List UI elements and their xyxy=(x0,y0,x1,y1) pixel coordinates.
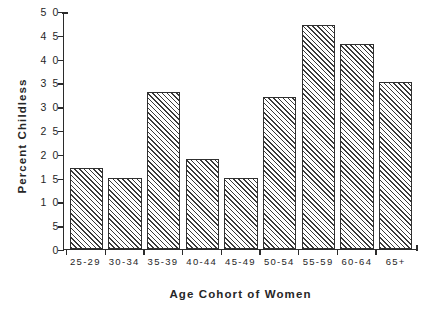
y-tick-label: 4 0 xyxy=(41,54,60,66)
y-tick-label: 5 xyxy=(53,220,60,232)
bar-slot xyxy=(299,12,338,249)
bar[interactable] xyxy=(147,92,180,249)
x-tick-label: 40-44 xyxy=(182,256,221,267)
y-tick-label: 3 5 xyxy=(41,77,60,89)
y-tick-label: 1 5 xyxy=(41,173,60,185)
y-tick-label: 1 0 xyxy=(41,196,60,208)
bar[interactable] xyxy=(340,44,373,249)
x-tick-mark xyxy=(337,249,338,255)
bar-slot xyxy=(144,12,183,249)
bar-slot xyxy=(338,12,377,249)
x-axis-tick-labels: 25-2930-3435-3940-4445-4950-5455-5960-64… xyxy=(63,256,418,267)
x-tick-label: 60-64 xyxy=(337,256,376,267)
plot-area: 051 01 52 02 53 03 54 04 55 0 xyxy=(63,12,418,250)
y-tick-label: 0 xyxy=(53,244,60,256)
bar[interactable] xyxy=(108,178,141,249)
x-tick-label: 30-34 xyxy=(105,256,144,267)
x-tick-mark xyxy=(143,249,144,255)
bar[interactable] xyxy=(379,82,412,249)
y-tick-label: 5 0 xyxy=(41,6,60,18)
bar-chart: Percent Childless 051 01 52 02 53 03 54 … xyxy=(0,0,431,316)
x-tick-mark xyxy=(259,249,260,255)
x-tick-label: 35-39 xyxy=(144,256,183,267)
x-tick-mark xyxy=(375,249,376,255)
bar[interactable] xyxy=(302,25,335,249)
x-tick-mark xyxy=(298,249,299,255)
bar-slot xyxy=(106,12,145,249)
bar-series xyxy=(64,12,418,249)
y-tick-label: 2 0 xyxy=(41,149,60,161)
bar[interactable] xyxy=(224,178,257,249)
x-tick-mark xyxy=(66,249,67,255)
x-axis-title: Age Cohort of Women xyxy=(63,288,418,300)
x-tick-label: 55-59 xyxy=(299,256,338,267)
x-tick-mark xyxy=(182,249,183,255)
bar-slot xyxy=(222,12,261,249)
x-tick-label: 65+ xyxy=(376,256,415,267)
x-tick-label: 25-29 xyxy=(66,256,105,267)
bar-slot xyxy=(260,12,299,249)
x-tick-mark xyxy=(105,249,106,255)
y-tick-label: 4 5 xyxy=(41,30,60,42)
x-tick-mark xyxy=(221,249,222,255)
bar[interactable] xyxy=(70,168,103,249)
x-tick-label: 45-49 xyxy=(221,256,260,267)
bar[interactable] xyxy=(263,97,296,249)
bar-slot xyxy=(183,12,222,249)
y-tick-label: 3 0 xyxy=(41,101,60,113)
bar[interactable] xyxy=(186,159,219,249)
y-axis-title: Percent Childless xyxy=(16,51,28,221)
x-tick-label: 50-54 xyxy=(260,256,299,267)
bar-slot xyxy=(376,12,415,249)
y-tick-label: 2 5 xyxy=(41,125,60,137)
bar-slot xyxy=(67,12,106,249)
